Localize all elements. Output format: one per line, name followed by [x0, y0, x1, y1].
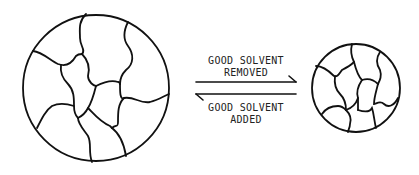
reverse-label-line2: ADDED	[196, 114, 296, 125]
reverse-label-line1: GOOD SOLVENT	[196, 102, 296, 113]
forward-label-line2: REMOVED	[196, 67, 296, 78]
small-network-circle	[312, 44, 400, 132]
diagram-canvas	[0, 0, 419, 175]
reverse-arrow	[196, 94, 296, 100]
large-network-circle	[23, 14, 169, 162]
forward-label-line1: GOOD SOLVENT	[196, 55, 296, 66]
